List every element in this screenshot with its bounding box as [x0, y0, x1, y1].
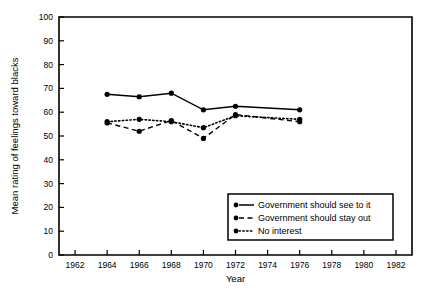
data-point-marker: [201, 136, 206, 141]
y-tick-label: 30: [44, 179, 54, 189]
x-tick-label: 1970: [194, 260, 213, 270]
data-point-marker: [201, 125, 206, 130]
x-tick-label: 1966: [130, 260, 149, 270]
legend-label: No interest: [258, 226, 302, 236]
data-point-marker: [201, 107, 206, 112]
data-point-marker: [169, 91, 174, 96]
y-tick-label: 20: [44, 202, 54, 212]
y-tick-label: 100: [39, 12, 53, 22]
x-tick-label: 1962: [66, 260, 85, 270]
data-point-marker: [233, 113, 238, 118]
data-point-marker: [137, 117, 142, 122]
data-point-marker: [137, 94, 142, 99]
legend-label: Government should stay out: [258, 213, 371, 223]
series-3: [105, 113, 303, 130]
y-axis-title: Mean rating of feelings toward blacks: [9, 57, 20, 214]
x-tick-label: 1972: [226, 260, 245, 270]
legend-marker: [234, 203, 239, 208]
data-point-marker: [105, 119, 110, 124]
x-tick-label: 1982: [386, 260, 405, 270]
x-tick-label: 1968: [162, 260, 181, 270]
y-tick-label: 80: [44, 60, 54, 70]
data-point-marker: [297, 117, 302, 122]
x-axis-title: Year: [226, 273, 245, 284]
data-point-marker: [233, 104, 238, 109]
data-point-marker: [105, 92, 110, 97]
y-tick-label: 50: [44, 131, 54, 141]
line-chart: 0102030405060708090100196219641966196819…: [0, 0, 430, 301]
x-tick-label: 1976: [290, 260, 309, 270]
y-tick-label: 90: [44, 36, 54, 46]
legend-label: Government should see to it: [258, 200, 371, 210]
y-tick-label: 10: [44, 226, 54, 236]
y-tick-label: 60: [44, 107, 54, 117]
x-tick-label: 1964: [98, 260, 117, 270]
x-tick-label: 1974: [258, 260, 277, 270]
chart-container: 0102030405060708090100196219641966196819…: [0, 0, 430, 301]
series-1: [105, 91, 303, 113]
x-tick-label: 1978: [322, 260, 341, 270]
legend-marker: [234, 216, 239, 221]
legend-marker: [234, 229, 239, 234]
x-tick-label: 1980: [354, 260, 373, 270]
data-point-marker: [137, 129, 142, 134]
y-tick-label: 0: [48, 250, 53, 260]
data-point-marker: [297, 107, 302, 112]
legend: Government should see to itGovernment sh…: [228, 194, 393, 240]
y-tick-label: 40: [44, 155, 54, 165]
data-point-marker: [169, 119, 174, 124]
y-tick-label: 70: [44, 83, 54, 93]
